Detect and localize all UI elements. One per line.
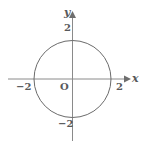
graph-canvas xyxy=(0,0,145,152)
y-tick-label-positive-2: 2 xyxy=(64,23,71,33)
y-tick-label-negative-2: −2 xyxy=(58,119,73,129)
origin-label: O xyxy=(60,82,69,92)
y-axis-label: y xyxy=(64,7,70,18)
x-tick-label-positive-2: 2 xyxy=(116,82,123,92)
coordinate-plane-figure: y x 2 −2 −2 2 O xyxy=(0,0,145,152)
x-axis-label: x xyxy=(132,73,139,84)
x-axis-arrowhead xyxy=(124,76,131,83)
x-tick-label-negative-2: −2 xyxy=(16,82,31,92)
